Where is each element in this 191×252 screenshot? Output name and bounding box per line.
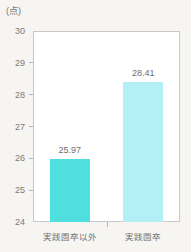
bar: 28.41 [123,31,163,222]
y-axis-tick: 25 [0,184,33,196]
y-axis-tick-label: 25 [15,184,25,196]
y-axis-tick: 26 [0,152,33,164]
x-axis-separator-tick [107,222,108,227]
y-axis-tick-label: 28 [15,89,25,101]
y-axis-tick: 29 [0,57,33,69]
y-axis-tick: 24 [0,216,33,228]
y-axis-tick-label: 26 [15,152,25,164]
bar-rect [50,159,90,222]
bar-value-label: 28.41 [132,68,155,79]
y-axis-tick: 28 [0,89,33,101]
bar-value-label: 25.97 [58,145,81,156]
y-axis-tick-label: 30 [15,25,25,37]
y-axis-tick-label: 27 [15,121,25,133]
y-axis: 30292827262524 [0,0,33,252]
x-axis-category-label: 実践園卒以外 [43,230,97,244]
y-axis-tick-label: 29 [15,57,25,69]
bar-chart: (点) 30292827262524 25.9728.41 実践園卒以外実践園卒 [0,0,191,252]
bar-rect [123,82,163,222]
x-axis-category-labels: 実践園卒以外実践園卒 [33,230,180,248]
x-axis-category-label: 実践園卒 [125,230,161,244]
y-axis-tick: 30 [0,25,33,37]
bars-layer: 25.9728.41 [33,31,180,222]
y-axis-tick: 27 [0,121,33,133]
bar: 25.97 [50,31,90,222]
y-axis-tick-label: 24 [15,216,25,228]
